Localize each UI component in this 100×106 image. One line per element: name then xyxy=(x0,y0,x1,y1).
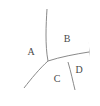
region-label-c: C xyxy=(54,73,61,84)
partitioned-circle-diagram: A B C D xyxy=(0,0,100,106)
region-label-d: D xyxy=(75,64,82,75)
region-label-b: B xyxy=(64,33,71,44)
region-label-a: A xyxy=(27,46,35,57)
diagram-root: A B C D xyxy=(0,0,100,106)
